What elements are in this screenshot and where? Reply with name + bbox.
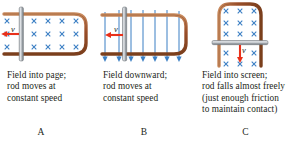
panel-c: v Field into screen; rod falls almost fr…: [198, 0, 293, 146]
velocity-label-a: v: [11, 24, 15, 34]
panel-a-caption: Field into page; rod moves at constant s…: [0, 70, 105, 104]
panel-a: v Field into page; rod moves at constant…: [0, 0, 98, 146]
velocity-label-c: v: [242, 45, 246, 55]
panel-c-diagram: v: [198, 0, 293, 68]
panel-b-caption: Field downward; rod moves at constant sp…: [98, 70, 203, 104]
sliding-rod-a: [19, 7, 23, 61]
caption-line: rod moves at: [103, 81, 203, 92]
panel-label-b: B: [94, 127, 194, 137]
velocity-label-b: v: [114, 24, 118, 34]
panel-label-c: C: [198, 127, 293, 137]
panel-a-diagram: v: [0, 0, 98, 68]
caption-line: Field downward;: [103, 70, 203, 81]
caption-line: (just enough friction: [202, 93, 293, 104]
caption-line: Field into screen;: [202, 70, 293, 81]
caption-line: constant speed: [7, 93, 105, 104]
caption-line: Field into page;: [7, 70, 105, 81]
caption-line: to maintain contact): [202, 104, 293, 115]
falling-rod-c: [212, 41, 268, 45]
panel-b-diagram: v: [98, 0, 198, 68]
caption-line: rod falls almost freely: [202, 81, 293, 92]
caption-line: constant speed: [103, 93, 203, 104]
caption-line: rod moves at: [7, 81, 105, 92]
sliding-rod-b: [123, 7, 127, 61]
induction-figure: v Field into page; rod moves at constant…: [0, 0, 293, 146]
panel-b: v Field downward; rod moves at constant …: [98, 0, 198, 146]
panel-label-a: A: [0, 127, 90, 137]
panel-c-caption: Field into screen; rod falls almost free…: [198, 70, 293, 116]
